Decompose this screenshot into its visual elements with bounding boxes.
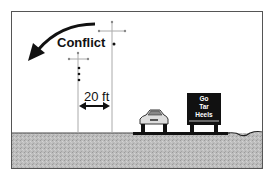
ground [12, 132, 262, 168]
billboard-text: Go Tar Heels [188, 95, 220, 119]
billboard-line-2: Tar [188, 103, 220, 111]
diagram-canvas [0, 0, 275, 179]
car [140, 110, 168, 132]
billboard-line-3: Heels [188, 111, 220, 119]
distance-label: 20 ft [84, 89, 109, 104]
conflict-label: Conflict [57, 35, 105, 50]
road-strip [133, 132, 228, 135]
billboard-line-1: Go [188, 95, 220, 103]
